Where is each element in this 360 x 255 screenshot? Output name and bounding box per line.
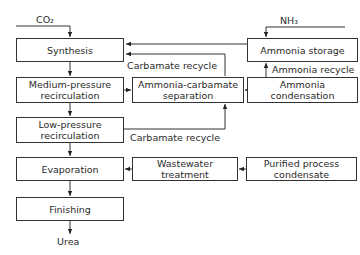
- node-purified-process-condensate-label: Purified process condensate: [254, 158, 350, 180]
- edge-label-carbamate-recycle-bottom: Carbamate recycle: [130, 132, 220, 143]
- edge-label-ammonia-recycle: Ammonia recycle: [272, 64, 354, 75]
- urea-output-label: Urea: [57, 236, 79, 247]
- node-ammonia-condensation-label: Ammonia condensation: [263, 79, 343, 101]
- node-synthesis: Synthesis: [16, 38, 124, 62]
- node-low-pressure-recirculation: Low-pressure recirculation: [16, 117, 124, 143]
- node-finishing: Finishing: [16, 197, 124, 221]
- node-synthesis-label: Synthesis: [47, 45, 93, 56]
- edge-label-carbamate-recycle-top: Carbamate recycle: [127, 60, 217, 71]
- node-wastewater-treatment: Wastewater treatment: [132, 157, 238, 181]
- node-ammonia-carbamate-separation: Ammonia-carbamate separation: [132, 77, 244, 103]
- node-ammonia-condensation: Ammonia condensation: [247, 77, 358, 103]
- node-wastewater-treatment-label: Wastewater treatment: [150, 158, 220, 180]
- node-low-pressure-label: Low-pressure recirculation: [30, 119, 110, 141]
- co2-input-label: CO₂: [36, 14, 54, 25]
- node-evaporation: Evaporation: [16, 157, 124, 181]
- node-ammonia-carbamate-separation-label: Ammonia-carbamate separation: [136, 79, 240, 101]
- node-medium-pressure-recirculation: Medium-pressure recirculation: [16, 77, 124, 103]
- node-purified-process-condensate: Purified process condensate: [246, 157, 357, 181]
- node-evaporation-label: Evaporation: [41, 164, 98, 175]
- node-ammonia-storage: Ammonia storage: [247, 38, 358, 62]
- node-ammonia-storage-label: Ammonia storage: [260, 45, 344, 56]
- node-finishing-label: Finishing: [49, 204, 91, 215]
- node-medium-pressure-label: Medium-pressure recirculation: [25, 79, 115, 101]
- nh3-input-label: NH₃: [280, 15, 298, 26]
